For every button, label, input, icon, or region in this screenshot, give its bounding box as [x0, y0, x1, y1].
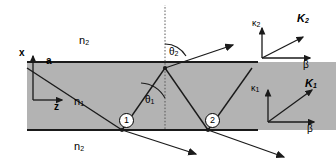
diagram-canvas	[0, 0, 336, 162]
ray-refracted-lower-1	[122, 130, 196, 154]
K1-label: K1	[305, 78, 317, 89]
K2-label: K2	[297, 13, 309, 24]
ray-refracted-lower-2	[208, 130, 284, 157]
bounce-vertex-1	[120, 128, 124, 132]
theta1-label: θ1	[145, 95, 154, 105]
z-axis-label: z	[54, 102, 59, 112]
bounce-vertex-top	[163, 66, 167, 70]
kappa2-label: κ2	[252, 19, 260, 28]
core-slab-region	[27, 62, 258, 130]
core-medium-label: n1	[74, 96, 84, 107]
core-slab-region-right	[258, 62, 336, 130]
beta-lower-label: β	[307, 124, 313, 134]
x-axis-label: x	[19, 48, 25, 58]
K2-vector	[262, 37, 303, 58]
upper-medium-label: n2	[79, 35, 89, 46]
lower-medium-label: n2	[74, 141, 84, 152]
bounce-vertex-2	[206, 128, 210, 132]
bounce-point-1: 1	[119, 113, 134, 128]
waveguide-ray-diagram: n2 n1 n2 x z a θ2 θ1 1 2 κ2 K2 β κ1 K1 β	[0, 0, 336, 162]
bounce-point-2: 2	[205, 113, 220, 128]
thickness-label: a	[46, 56, 52, 66]
kappa1-label: κ1	[251, 84, 259, 93]
theta2-label: θ2	[169, 47, 178, 57]
beta-upper-label: β	[303, 60, 309, 70]
